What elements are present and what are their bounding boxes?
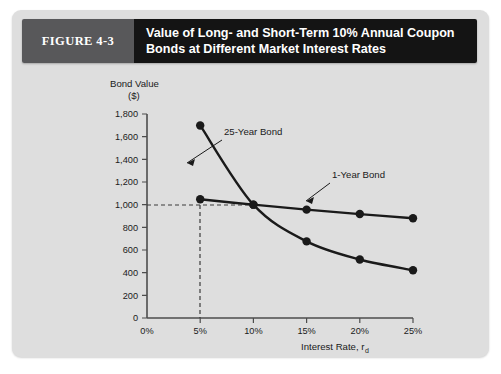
figure-title: Value of Long- and Short-Term 10% Annual… — [134, 19, 477, 63]
x-tick-label: 5% — [194, 326, 207, 336]
data-point-marker — [249, 200, 257, 208]
figure-header: FIGURE 4-3 Value of Long- and Short-Term… — [22, 19, 477, 63]
series-line-25-year-bond — [200, 125, 413, 270]
bond-value-line-chart: Bond Value ($) 02004006008001,0001,2001,… — [12, 65, 489, 357]
data-point-marker — [302, 237, 310, 245]
y-tick-label: 1,600 — [115, 132, 138, 142]
chart-plot-area: Bond Value ($) 02004006008001,0001,2001,… — [12, 65, 489, 357]
y-tick-label: 600 — [123, 245, 138, 255]
x-tick-label: 25% — [404, 326, 422, 336]
series-markers-25-year-bond — [196, 121, 417, 274]
annotation-leader-1-year-bond — [306, 183, 330, 201]
annotation-label-1-year-bond: 1-Year Bond — [332, 169, 385, 180]
x-tick-label: 0% — [140, 326, 153, 336]
figure-panel: FIGURE 4-3 Value of Long- and Short-Term… — [12, 10, 489, 357]
data-point-marker — [196, 195, 204, 203]
y-tick-label: 1,800 — [115, 109, 138, 119]
y-tick-label: 200 — [123, 291, 138, 301]
series-markers-1-year-bond — [196, 195, 417, 222]
data-point-marker — [409, 266, 417, 274]
y-tick-label: 1,000 — [115, 200, 138, 210]
y-tick-label: 0 — [133, 313, 138, 323]
y-axis-title-line-2: ($) — [128, 90, 140, 101]
x-tick-label: 20% — [351, 326, 369, 336]
x-axis-ticks: 0%5%10%15%20%25% — [140, 318, 422, 336]
y-tick-label: 1,400 — [115, 155, 138, 165]
y-tick-label: 400 — [123, 268, 138, 278]
x-tick-label: 10% — [244, 326, 262, 336]
y-axis-ticks: 02004006008001,0001,2001,4001,6001,800 — [115, 109, 147, 323]
figure-title-line-1: Value of Long- and Short-Term 10% Annual… — [146, 25, 469, 41]
data-point-marker — [302, 205, 310, 213]
x-axis-title: Interest Rate, r — [301, 341, 365, 352]
annotation-label-25-year-bond: 25-Year Bond — [224, 126, 282, 137]
y-tick-label: 800 — [123, 223, 138, 233]
x-tick-label: 15% — [297, 326, 315, 336]
y-tick-label: 1,200 — [115, 177, 138, 187]
data-point-marker — [356, 255, 364, 263]
data-point-marker — [196, 121, 204, 129]
figure-number-badge: FIGURE 4-3 — [22, 19, 134, 63]
x-axis-title-subscript: d — [365, 347, 369, 354]
data-point-marker — [409, 214, 417, 222]
data-point-marker — [356, 210, 364, 218]
figure-title-line-2: Bonds at Different Market Interest Rates — [146, 41, 469, 57]
y-axis-title-line-1: Bond Value — [110, 78, 159, 89]
